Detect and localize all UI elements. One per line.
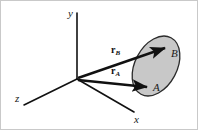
coordinate-axes bbox=[24, 13, 134, 112]
figure-canvas: y z x rB rA B A bbox=[1, 1, 198, 130]
point-label-a: A bbox=[152, 81, 160, 93]
vector-label-r-a: rA bbox=[111, 65, 120, 78]
vector-label-r-b: rB bbox=[111, 44, 120, 57]
axis-label-z: z bbox=[14, 92, 20, 104]
position-vectors-figure: y z x rB rA B A bbox=[0, 0, 198, 130]
vector-label-r-a-subscript: A bbox=[114, 70, 120, 78]
axis-label-y: y bbox=[67, 7, 73, 19]
point-label-b: B bbox=[171, 47, 178, 59]
vector-label-r-b-subscript: B bbox=[114, 49, 120, 57]
axis-label-x: x bbox=[133, 113, 139, 125]
axis-line-z bbox=[24, 79, 77, 105]
